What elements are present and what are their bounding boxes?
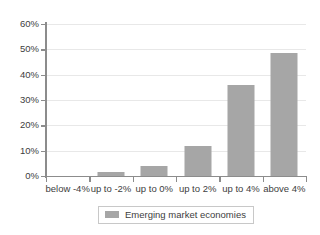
bar [141, 166, 168, 176]
y-axis-tick-label: 60% [3, 19, 39, 29]
bar [227, 85, 254, 176]
x-axis-labels: below -4%up to -2%up to 0%up to 2%up to … [46, 183, 306, 197]
x-axis-tick [176, 177, 177, 182]
bar-slot [263, 24, 306, 176]
bar-slot [133, 24, 176, 176]
y-axis-tick-label: 10% [3, 146, 39, 156]
bar-slot [176, 24, 219, 176]
y-axis-labels: 0%10%20%30%40%50%60% [0, 0, 39, 235]
x-axis-tick [89, 177, 90, 182]
x-axis-tick [46, 177, 47, 182]
bar-slot [89, 24, 132, 176]
bar-slot [219, 24, 262, 176]
y-axis-tick-label: 40% [3, 70, 39, 80]
y-axis-tick-label: 0% [3, 171, 39, 181]
bar [271, 53, 298, 176]
y-axis-tick-label: 30% [3, 95, 39, 105]
x-axis-tick [219, 177, 220, 182]
x-axis-tick-label: above 4% [257, 183, 312, 195]
legend-item-label: Emerging market economies [125, 209, 246, 220]
bar-chart: 0%10%20%30%40%50%60% below -4%up to -2%u… [0, 0, 320, 235]
bar [97, 172, 124, 176]
x-axis-tick [306, 177, 307, 182]
legend-swatch-icon [105, 211, 119, 218]
x-axis-tick [263, 177, 264, 182]
y-axis-tick-label: 20% [3, 120, 39, 130]
bar-series-emerging-market-economies [46, 24, 306, 176]
y-axis-tick-label: 50% [3, 44, 39, 54]
bar-slot [46, 24, 89, 176]
chart-legend: Emerging market economies [98, 206, 254, 224]
bar [184, 146, 211, 176]
x-axis-tick [133, 177, 134, 182]
